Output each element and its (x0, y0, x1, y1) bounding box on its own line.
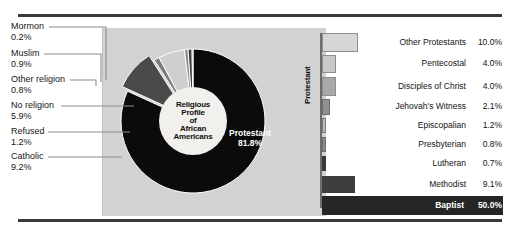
bar-lutheran (322, 156, 326, 171)
bar-name-pentecostal: Pentecostal (422, 58, 466, 68)
callout-catholic-value: 9.2% (11, 162, 44, 173)
bar-value-episcopalian: 1.2% (472, 120, 502, 130)
callout-other-religion-name: Other religion (11, 74, 65, 84)
bar-methodist (322, 176, 355, 193)
bar-name-disciples-of-christ: Disciples of Christ (398, 81, 466, 91)
callout-catholic-name: Catholic (11, 151, 44, 161)
callout-mormon-name: Mormon (11, 21, 44, 31)
bar-other-protestants (322, 33, 358, 52)
bar-value-disciples-of-christ: 4.0% (472, 81, 502, 91)
callout-refused-name: Refused (11, 126, 45, 136)
bar-episcopalian (322, 118, 326, 133)
callout-muslim: Muslim 0.9% (11, 48, 40, 69)
bar-name-other-protestants: Other Protestants (399, 37, 466, 47)
bar-label-episcopalian: Episcopalian1.2% (418, 120, 502, 130)
protestant-value: 81.8% (238, 138, 262, 148)
callout-refused: Refused 1.2% (11, 126, 45, 147)
bar-label-pentecostal: Pentecostal4.0% (422, 58, 502, 68)
callout-no-religion-value: 5.9% (11, 111, 54, 122)
bottom-rule (18, 219, 502, 222)
bar-value-presbyterian: 0.8% (472, 139, 502, 149)
bar-label-lutheran: Lutheran0.7% (432, 158, 502, 168)
callout-no-religion-name: No religion (11, 100, 54, 110)
callout-muslim-name: Muslim (11, 48, 40, 58)
bar-axis-label: Protestant (303, 66, 312, 104)
bar-disciples-of-christ (322, 77, 336, 96)
callout-muslim-value: 0.9% (11, 59, 40, 70)
bar-value-baptist: 50.0% (470, 200, 502, 210)
pie-chart: Religious Profile of African Americans P… (96, 27, 296, 217)
pie-slice-label-protestant: Protestant 81.8% (214, 129, 286, 149)
bar-name-episcopalian: Episcopalian (418, 120, 466, 130)
callout-catholic: Catholic 9.2% (11, 151, 44, 172)
bar-pentecostal (322, 55, 336, 73)
bar-label-baptist: Baptist50.0% (435, 200, 502, 210)
bar-name-lutheran: Lutheran (432, 158, 466, 168)
bar-name-baptist: Baptist (435, 200, 464, 210)
bar-name-jehovah-s-witness: Jehovah's Witness (395, 101, 466, 111)
protestant-name: Protestant (229, 128, 271, 138)
bar-jehovah-s-witness (322, 99, 330, 115)
bar-label-other-protestants: Other Protestants10.0% (399, 37, 502, 47)
bar-label-presbyterian: Presbyterian0.8% (418, 139, 502, 149)
top-rule (18, 14, 502, 17)
callout-mormon-value: 0.2% (11, 32, 44, 43)
callout-other-religion-value: 0.8% (11, 85, 65, 96)
bar-presbyterian (322, 137, 326, 152)
callout-no-religion: No religion 5.9% (11, 100, 54, 121)
bar-label-methodist: Methodist9.1% (429, 179, 502, 189)
bar-value-jehovah-s-witness: 2.1% (472, 101, 502, 111)
center-line-4: Americans (173, 133, 212, 141)
callout-refused-value: 1.2% (11, 137, 45, 148)
bar-name-methodist: Methodist (429, 179, 466, 189)
bar-label-jehovah-s-witness: Jehovah's Witness2.1% (395, 101, 502, 111)
bar-value-methodist: 9.1% (472, 179, 502, 189)
bar-value-other-protestants: 10.0% (472, 37, 502, 47)
callout-mormon: Mormon 0.2% (11, 21, 44, 42)
bar-name-presbyterian: Presbyterian (418, 139, 466, 149)
callout-other-religion: Other religion 0.8% (11, 74, 65, 95)
bar-label-disciples-of-christ: Disciples of Christ4.0% (398, 81, 502, 91)
bar-value-lutheran: 0.7% (472, 158, 502, 168)
bar-value-pentecostal: 4.0% (472, 58, 502, 68)
